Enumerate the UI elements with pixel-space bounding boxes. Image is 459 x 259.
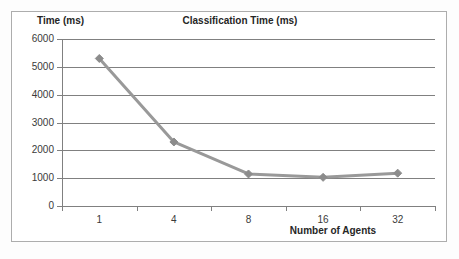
- x-axis-tick-mark: [62, 206, 63, 211]
- y-axis-tick-mark: [57, 150, 62, 151]
- x-axis-tick-label: 32: [392, 214, 403, 225]
- x-axis-title: Number of Agents: [246, 225, 420, 237]
- x-axis-tick-mark: [137, 206, 138, 211]
- data-point-marker: [394, 169, 402, 177]
- series-layer: [0, 0, 459, 259]
- x-axis-tick-label: 4: [171, 214, 177, 225]
- x-axis-tick-label: 8: [246, 214, 252, 225]
- y-axis-tick-mark: [57, 178, 62, 179]
- y-axis-tick-mark: [57, 39, 62, 40]
- x-axis-tick-mark: [360, 206, 361, 211]
- figure-canvas: Time (ms) Classification Time (ms) 01000…: [0, 0, 459, 259]
- series-line: [99, 58, 397, 177]
- x-axis-tick-mark: [286, 206, 287, 211]
- data-point-marker: [319, 173, 327, 181]
- y-axis-tick-mark: [57, 67, 62, 68]
- y-axis-tick-mark: [57, 123, 62, 124]
- x-axis-tick-mark: [211, 206, 212, 211]
- x-axis-tick-label: 16: [318, 214, 329, 225]
- x-axis-tick-label: 1: [97, 214, 103, 225]
- y-axis-tick-mark: [57, 95, 62, 96]
- x-axis-tick-mark: [435, 206, 436, 211]
